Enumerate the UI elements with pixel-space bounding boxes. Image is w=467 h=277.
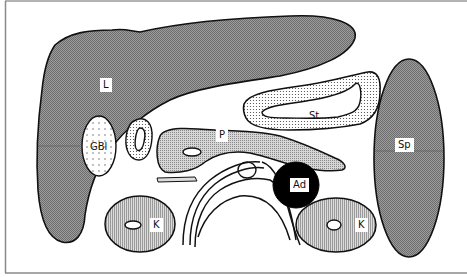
label-adrenal: Ad (290, 178, 309, 192)
label-stomach: St (306, 109, 322, 123)
vessel-shape (157, 177, 197, 182)
spleen-shape (374, 59, 444, 257)
kidney-right-pelvis (125, 221, 141, 229)
label-pancreas: P (216, 128, 228, 142)
label-kidney-right: K (150, 218, 163, 232)
label-gallbladder: GBl (87, 140, 110, 154)
label-spleen: Sp (395, 138, 414, 152)
label-liver: L (100, 78, 112, 92)
kidney-left-pelvis (327, 220, 341, 230)
pancreatic-duct (183, 148, 201, 156)
label-kidney-left: K (355, 218, 368, 232)
